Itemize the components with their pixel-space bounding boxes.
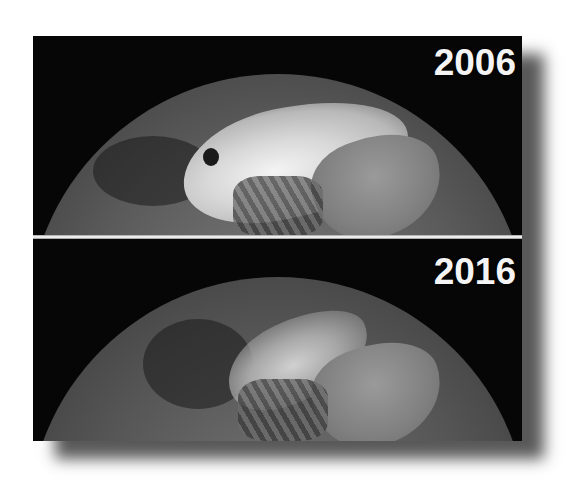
canadian-archipelago <box>238 379 328 441</box>
panel-2006: 2006 <box>33 36 522 235</box>
year-label: 2016 <box>434 251 516 293</box>
arctic-ice-comparison-figure: 2006 2016 <box>33 36 522 441</box>
year-label: 2006 <box>434 42 516 84</box>
ice-dark-spot <box>203 148 219 166</box>
canadian-archipelago <box>233 176 323 235</box>
panel-2016: 2016 <box>33 239 522 441</box>
